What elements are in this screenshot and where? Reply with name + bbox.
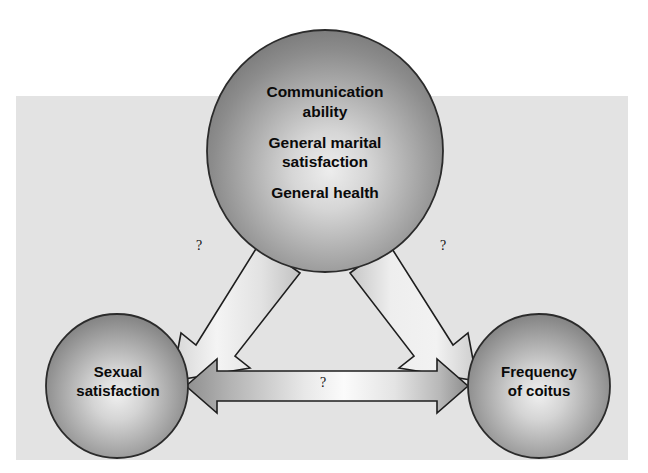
diagram-figure: Communication ability General marital sa… bbox=[0, 0, 648, 473]
predictors-node bbox=[207, 30, 443, 272]
frequency-of-coitus-node bbox=[468, 314, 610, 458]
sexual-satisfaction-node bbox=[46, 314, 188, 458]
arrow-top-to-frequency-of-coitus bbox=[350, 244, 477, 381]
arrow-top-to-sexual-satisfaction bbox=[172, 244, 300, 381]
diagram-canvas bbox=[0, 0, 648, 473]
